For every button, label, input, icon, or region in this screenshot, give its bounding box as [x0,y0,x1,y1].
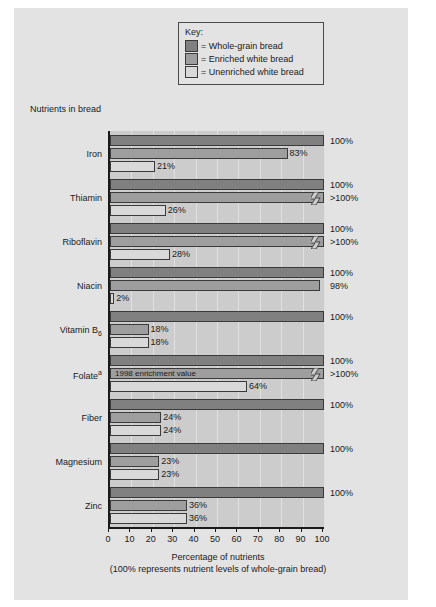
category-label-folate: Folatea [2,369,102,381]
legend-swatch-enriched [185,53,198,65]
bar-value-label: 24% [163,425,181,435]
chart-title: Nutrients in bread [30,104,101,114]
bar-row: 26% [110,205,166,216]
bar-row [110,267,324,278]
bar-row: 83% [110,148,288,159]
bar-value-label: 36% [189,513,207,523]
bar-row: 18% [110,337,149,348]
bar-inline-note: 1998 enrichment value [115,369,196,378]
legend-item-enriched: = Enriched white bread [185,53,317,65]
bar-folate-1: 1998 enrichment value [110,368,324,379]
gridline [174,131,175,527]
gridline [196,131,197,527]
bar-value-label: >100% [330,237,358,247]
x-axis-tick-label: 0 [96,534,120,544]
bar-riboflavin-0 [110,223,324,234]
x-axis-tick-label: 60 [224,534,248,544]
axis-break-icon [311,368,324,381]
bar-value-label: >100% [330,369,358,379]
bar-magnesium-1: 23% [110,456,159,467]
bar-row [110,135,324,146]
bar-fiber-1: 24% [110,412,161,423]
category-label-vitamin-b6: Vitamin B6 [2,325,102,337]
category-label-zinc: Zinc [2,501,102,511]
bar-value-label: 100% [330,444,353,454]
bar-vitamin-b6-2: 18% [110,337,149,348]
bar-vitamin-b6-1: 18% [110,324,149,335]
bar-value-label: 100% [330,224,353,234]
x-axis-tick-label: 50 [203,534,227,544]
bar-value-label: 23% [161,469,179,479]
bar-row [110,280,320,291]
bar-zinc-1: 36% [110,500,187,511]
category-label-thiamin: Thiamin [2,193,102,203]
bar-value-label: 2% [116,293,129,303]
gridline [324,131,325,527]
bar-value-label: 36% [189,500,207,510]
bar-value-label: 18% [151,337,169,347]
bar-row: 36% [110,500,187,511]
bar-row [110,223,324,234]
x-axis-tick-label: 100 [310,534,334,544]
bar-iron-1: 83% [110,148,288,159]
bar-row: 2% [110,293,114,304]
legend-label-enriched: = Enriched white bread [201,53,293,65]
axis-break-icon [311,192,324,205]
bar-value-label: 100% [330,488,353,498]
bar-row: 64% [110,381,247,392]
legend-label-whole-grain: = Whole-grain bread [201,40,283,52]
legend-swatch-unenriched [185,66,198,78]
bar-zinc-2: 36% [110,513,187,524]
x-axis-tick-label: 80 [267,534,291,544]
bar-row [110,443,324,454]
bar-row [110,311,324,322]
bar-value-label: 21% [157,161,175,171]
bar-folate-2: 64% [110,381,247,392]
legend-key: Key: = Whole-grain bread = Enriched whit… [178,22,324,85]
bar-row [110,236,324,247]
category-label-iron: Iron [2,149,102,159]
x-axis-line [108,527,324,529]
bar-value-label: 100% [330,268,353,278]
legend-title: Key: [185,27,317,38]
bar-row: 23% [110,456,159,467]
bar-row: 18% [110,324,149,335]
bar-value-label: 100% [330,180,353,190]
bar-value-label: 24% [163,412,181,422]
bar-value-label: >100% [330,193,358,203]
bar-row: 28% [110,249,170,260]
gridline [217,131,218,527]
axis-break-icon [311,236,324,249]
bar-value-label: 98% [330,281,348,291]
bar-vitamin-b6-0 [110,311,324,322]
x-axis-tick-label: 90 [289,534,313,544]
bar-niacin-2: 2% [110,293,114,304]
bar-thiamin-1 [110,192,324,203]
bar-row [110,399,324,410]
x-axis-tick-label: 70 [246,534,270,544]
bar-value-label: 83% [290,148,308,158]
bar-row: 36% [110,513,187,524]
bar-row [110,179,324,190]
bar-thiamin-0 [110,179,324,190]
bar-thiamin-2: 26% [110,205,166,216]
category-label-magnesium: Magnesium [2,457,102,467]
legend-label-unenriched: = Unenriched white bread [201,66,304,78]
bar-row [110,487,324,498]
bar-niacin-1 [110,280,320,291]
x-axis-tick-label: 30 [160,534,184,544]
bar-value-label: 100% [330,136,353,146]
bar-riboflavin-2: 28% [110,249,170,260]
bar-folate-0 [110,355,324,366]
bar-zinc-0 [110,487,324,498]
bar-row: 23% [110,469,159,480]
category-label-riboflavin: Riboflavin [2,237,102,247]
x-axis-caption: Percentage of nutrients (100% represents… [0,551,436,575]
gridline [260,131,261,527]
bar-value-label: 28% [172,249,190,259]
bar-value-label: 100% [330,356,353,366]
bar-row: 24% [110,412,161,423]
bar-niacin-0 [110,267,324,278]
bar-fiber-0 [110,399,324,410]
bar-magnesium-2: 23% [110,469,159,480]
